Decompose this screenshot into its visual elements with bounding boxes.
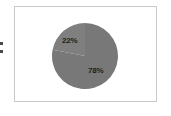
pie-slices xyxy=(52,23,118,89)
cutoff-mark-upper xyxy=(0,42,3,45)
pie-chart-svg xyxy=(51,17,119,95)
cutoff-mark-lower xyxy=(0,50,3,53)
screenshot-root: 22% 78% xyxy=(0,0,171,116)
pie-chart: 22% 78% xyxy=(15,7,156,101)
pie-slice-label-78: 78% xyxy=(88,66,103,75)
chart-frame: 22% 78% xyxy=(14,6,157,102)
pie-slice-label-22: 22% xyxy=(62,36,77,45)
left-edge-cutoff-marks xyxy=(0,42,4,54)
